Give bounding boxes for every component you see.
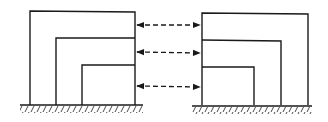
bottom-connector-arrow <box>137 86 200 87</box>
right-outer-frame <box>202 13 308 105</box>
connectors <box>137 25 200 87</box>
right-ground-hatch <box>192 107 312 114</box>
left-middle-frame <box>56 38 135 105</box>
right-structure <box>192 13 312 114</box>
left-structure <box>20 11 143 113</box>
diagram-canvas <box>0 0 328 122</box>
middle-connector-arrow <box>137 52 200 53</box>
right-inner-frame <box>202 67 254 105</box>
right-middle-frame <box>202 40 281 105</box>
left-ground-hatch <box>20 106 143 113</box>
left-inner-frame <box>82 65 135 105</box>
